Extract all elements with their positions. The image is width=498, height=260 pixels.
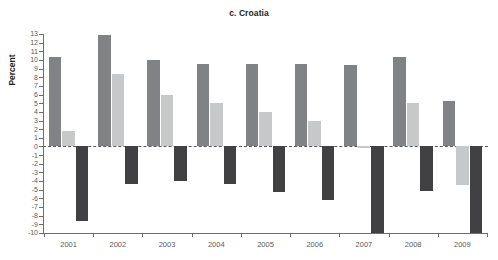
y-axis-tick-label: 3 <box>4 117 38 124</box>
y-axis-tick-label: -6 <box>4 195 38 202</box>
bar <box>371 146 384 233</box>
y-axis-tick-label: -9 <box>4 221 38 228</box>
bar <box>443 101 456 146</box>
x-axis-tick <box>142 233 143 237</box>
bar <box>49 57 62 146</box>
bar <box>112 74 125 147</box>
plot-area <box>44 34 487 233</box>
bar <box>273 146 286 192</box>
y-axis-tick-label: -3 <box>4 169 38 176</box>
bar <box>259 112 272 147</box>
bar <box>308 121 321 147</box>
y-axis-tick-label: 10 <box>4 56 38 63</box>
y-axis-tick-label: 5 <box>4 100 38 107</box>
y-axis-tick <box>39 77 44 78</box>
y-axis-tick-label: 0 <box>4 143 38 150</box>
y-axis-tick <box>39 190 44 191</box>
chart-title: c. Croatia <box>0 8 498 18</box>
bar <box>62 131 75 147</box>
x-axis-tick-label: 2001 <box>49 240 89 249</box>
y-axis-tick-label: 13 <box>4 30 38 37</box>
y-axis-tick-label: -10 <box>4 229 38 236</box>
y-axis-tick <box>39 112 44 113</box>
bar <box>420 146 433 191</box>
bar <box>174 146 187 181</box>
bar <box>161 95 174 147</box>
bar <box>98 35 111 147</box>
y-axis-tick-labels: 131211109876543210-1-2-3-4-5-6-7-8-9-10 <box>0 0 38 260</box>
bar <box>393 57 406 146</box>
y-axis-tick <box>39 86 44 87</box>
bar <box>322 146 335 200</box>
y-axis-tick <box>39 121 44 122</box>
x-axis-line <box>43 233 488 234</box>
x-axis-tick-label: 2008 <box>393 240 433 249</box>
x-axis-tick <box>44 233 45 237</box>
x-axis-tick <box>487 233 488 237</box>
y-axis-tick <box>39 43 44 44</box>
x-axis-tick <box>241 233 242 237</box>
x-axis-tick <box>93 233 94 237</box>
y-axis-tick-label: 1 <box>4 134 38 141</box>
y-axis-tick <box>39 216 44 217</box>
y-axis-tick-label: -2 <box>4 160 38 167</box>
y-axis-tick-label: 6 <box>4 91 38 98</box>
y-axis-tick-label: 2 <box>4 126 38 133</box>
y-axis-tick <box>39 51 44 52</box>
bar <box>76 146 89 220</box>
bar <box>224 146 237 183</box>
y-axis-tick-label: 7 <box>4 82 38 89</box>
y-axis-tick <box>39 164 44 165</box>
y-axis-tick-label: 12 <box>4 39 38 46</box>
x-axis-tick <box>290 233 291 237</box>
bar <box>147 60 160 147</box>
bar <box>470 146 483 233</box>
x-axis-tick-label: 2003 <box>147 240 187 249</box>
y-axis-tick <box>39 172 44 173</box>
y-axis-tick-label: 8 <box>4 74 38 81</box>
bar <box>344 65 357 146</box>
y-axis-tick-label: -1 <box>4 152 38 159</box>
x-axis-tick-label: 2009 <box>442 240 482 249</box>
y-axis-tick <box>39 69 44 70</box>
bar <box>125 146 138 183</box>
bar <box>358 146 371 148</box>
x-axis-tick <box>438 233 439 237</box>
y-axis-tick-label: -4 <box>4 177 38 184</box>
y-axis-tick <box>39 207 44 208</box>
y-axis-tick <box>39 34 44 35</box>
y-axis-tick-label: -8 <box>4 212 38 219</box>
bar <box>295 64 308 146</box>
y-axis-tick <box>39 138 44 139</box>
chart-figure: c. Croatia Percent 131211109876543210-1-… <box>0 0 498 260</box>
y-axis-tick <box>39 146 44 147</box>
y-axis-tick <box>39 95 44 96</box>
y-axis-tick <box>39 60 44 61</box>
bar <box>456 146 469 185</box>
y-axis-tick <box>39 103 44 104</box>
y-axis-tick-label: 4 <box>4 108 38 115</box>
x-axis-tick-label: 2007 <box>344 240 384 249</box>
bar <box>246 64 259 146</box>
x-axis-tick <box>192 233 193 237</box>
x-axis-tick-label: 2002 <box>98 240 138 249</box>
bar <box>407 103 420 146</box>
y-axis-tick <box>39 129 44 130</box>
x-axis-tick <box>389 233 390 237</box>
x-axis-tick-label: 2005 <box>246 240 286 249</box>
y-axis-tick <box>39 198 44 199</box>
y-axis-tick <box>39 181 44 182</box>
y-axis-tick-label: 9 <box>4 65 38 72</box>
y-axis-tick <box>39 224 44 225</box>
bar <box>210 103 223 146</box>
y-axis-tick-label: -5 <box>4 186 38 193</box>
y-axis-tick-label: -7 <box>4 203 38 210</box>
bar <box>197 64 210 146</box>
y-axis-tick-label: 11 <box>4 48 38 55</box>
x-axis-tick-label: 2006 <box>295 240 335 249</box>
y-axis-tick <box>39 155 44 156</box>
x-axis-tick <box>339 233 340 237</box>
x-axis-tick-label: 2004 <box>196 240 236 249</box>
